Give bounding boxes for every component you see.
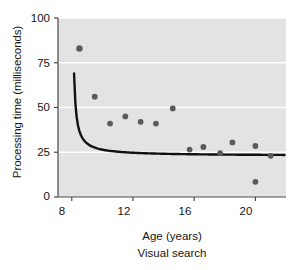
- data-point: [170, 105, 176, 111]
- x-tick-label: 12: [109, 205, 139, 217]
- data-point: [153, 121, 159, 127]
- data-point: [217, 150, 223, 156]
- data-point: [187, 147, 193, 153]
- data-point: [253, 143, 259, 149]
- x-tick-label: 16: [170, 205, 200, 217]
- data-point: [138, 119, 144, 125]
- data-point: [107, 121, 113, 127]
- data-point: [92, 94, 98, 100]
- data-point: [122, 114, 128, 120]
- y-axis-title: Processing time (milliseconds): [11, 9, 23, 195]
- data-point: [268, 153, 274, 159]
- data-point: [253, 179, 259, 185]
- data-point: [76, 45, 82, 51]
- figure-caption: Visual search: [58, 247, 286, 259]
- x-axis-title: Age (years): [58, 230, 286, 242]
- chart-figure: 100 75 50 25 0 8 12 16 20 Processing tim…: [0, 0, 299, 270]
- x-axis-ticks: [72, 197, 256, 201]
- data-point: [230, 140, 236, 146]
- x-tick-label: 20: [231, 205, 261, 217]
- data-point: [200, 144, 206, 150]
- x-tick-label: 8: [47, 205, 77, 217]
